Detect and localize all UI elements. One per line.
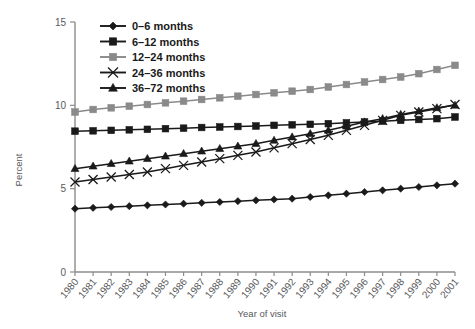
marker-diamond (126, 203, 133, 210)
marker-square (379, 76, 386, 83)
marker-square (216, 95, 223, 102)
marker-diamond (270, 196, 277, 203)
marker-square (180, 98, 187, 105)
x-tick-label: 1991 (257, 276, 280, 300)
marker-square (289, 122, 296, 129)
marker-diamond (234, 198, 241, 205)
legend-label: 12–24 months (132, 51, 205, 63)
chart-container: 051015 198019811982198319841985198619871… (0, 0, 475, 329)
marker-square (198, 124, 205, 131)
x-tick-label: 1981 (76, 276, 99, 300)
legend-item[interactable]: 6–12 months (100, 36, 199, 48)
marker-diamond (109, 22, 117, 30)
x-tick-label: 1995 (329, 276, 352, 300)
marker-diamond (307, 193, 314, 200)
marker-diamond (451, 180, 458, 187)
marker-square (253, 123, 260, 130)
marker-diamond (397, 185, 404, 192)
marker-square (90, 106, 97, 113)
x-tick-label: 1989 (221, 276, 244, 300)
marker-diamond (379, 187, 386, 194)
x-tick-label: 1994 (311, 276, 334, 300)
series-12-24-months (72, 62, 459, 115)
x-axis-ticks: 1980198119821983198419851986198719881989… (58, 272, 461, 300)
marker-square (271, 90, 278, 97)
marker-square (162, 100, 169, 107)
x-tick-label: 1980 (58, 276, 81, 300)
marker-square (235, 123, 242, 130)
marker-diamond (108, 203, 115, 210)
y-axis-title: Percent (13, 153, 24, 186)
marker-square (162, 125, 169, 132)
y-tick-label: 0 (60, 267, 66, 278)
series-0-6-months (71, 180, 458, 212)
marker-square (289, 88, 296, 95)
x-tick-label: 1987 (184, 276, 207, 300)
marker-square (397, 74, 404, 81)
legend-item[interactable]: 0–6 months (100, 20, 193, 32)
x-tick-label: 2000 (420, 276, 443, 300)
marker-square (434, 66, 441, 73)
legend-label: 6–12 months (132, 36, 199, 48)
marker-square (235, 93, 242, 100)
marker-square (325, 84, 332, 91)
marker-square (307, 86, 314, 93)
x-tick-label: 1985 (148, 276, 171, 300)
marker-square (72, 128, 79, 135)
marker-diamond (89, 204, 96, 211)
marker-square (415, 70, 422, 77)
x-tick-label: 1986 (166, 276, 189, 300)
marker-diamond (180, 200, 187, 207)
marker-square (144, 101, 151, 108)
data-series-layer (71, 62, 460, 212)
marker-diamond (162, 201, 169, 208)
marker-square (343, 81, 350, 88)
marker-diamond (289, 195, 296, 202)
marker-square (216, 124, 223, 131)
marker-diamond (216, 198, 223, 205)
line-chart: 051015 198019811982198319841985198619871… (0, 0, 475, 329)
x-axis-title: Year of visit (238, 308, 287, 319)
legend-label: 0–6 months (132, 20, 193, 32)
marker-square (415, 116, 422, 123)
marker-square (109, 38, 116, 45)
chart-legend: 0–6 months6–12 months12–24 months24–36 m… (100, 20, 205, 94)
marker-square (90, 128, 97, 135)
marker-diamond (252, 197, 259, 204)
marker-diamond (415, 183, 422, 190)
marker-square (109, 53, 116, 60)
legend-item[interactable]: 12–24 months (100, 51, 205, 63)
marker-square (452, 62, 459, 69)
x-tick-label: 1992 (275, 276, 298, 300)
marker-diamond (361, 188, 368, 195)
x-tick-label: 1990 (239, 276, 262, 300)
marker-square (271, 122, 278, 129)
marker-square (452, 114, 459, 121)
y-tick-label: 15 (55, 17, 67, 28)
marker-square (126, 127, 133, 134)
x-tick-label: 1982 (94, 276, 117, 300)
legend-item[interactable]: 24–36 months (100, 67, 205, 79)
y-axis-ticks: 051015 (55, 17, 75, 278)
x-tick-label: 1984 (130, 276, 153, 300)
x-tick-label: 1998 (384, 276, 407, 300)
marker-square (253, 91, 260, 98)
marker-diamond (433, 182, 440, 189)
x-tick-label: 1983 (112, 276, 135, 300)
y-tick-label: 5 (60, 183, 66, 194)
y-tick-label: 10 (55, 100, 67, 111)
marker-square (361, 79, 368, 86)
x-tick-label: 1988 (203, 276, 226, 300)
x-tick-label: 1997 (365, 276, 388, 300)
x-tick-label: 1993 (293, 276, 316, 300)
marker-square (144, 126, 151, 133)
marker-square (198, 96, 205, 103)
x-tick-label: 1999 (402, 276, 425, 300)
marker-square (307, 121, 314, 128)
x-tick-label: 2001 (438, 276, 461, 300)
x-tick-label: 1996 (347, 276, 370, 300)
marker-square (72, 109, 79, 116)
marker-square (108, 127, 115, 134)
legend-label: 24–36 months (132, 67, 205, 79)
legend-item[interactable]: 36–72 months (100, 82, 205, 94)
